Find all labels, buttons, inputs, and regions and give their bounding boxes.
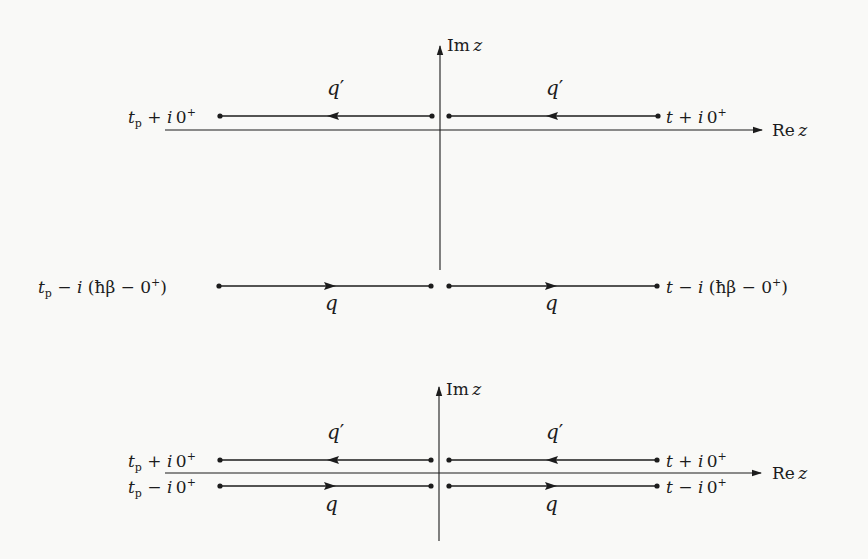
superscript-plus: + [187, 476, 196, 489]
imag-unit: i [698, 451, 703, 471]
hbar-beta-term: (ħβ − 0 [82, 277, 151, 297]
t-symbol: t [666, 451, 673, 471]
q-symbol: q [546, 76, 559, 100]
superscript-plus: + [151, 276, 160, 289]
bottom-re-axis-label: Re z [772, 465, 807, 482]
prime-mark: ′ [559, 420, 564, 444]
re-label-text: Re [772, 120, 795, 140]
t-symbol: t [666, 277, 673, 297]
imag-unit: i [698, 477, 703, 497]
operator: − [52, 277, 77, 297]
endpoint-dot [217, 457, 222, 462]
endpoint-dot [654, 283, 659, 288]
endpoint-dot [446, 283, 451, 288]
field-label-q: q [545, 293, 558, 313]
superscript-plus: + [718, 476, 727, 489]
t-symbol: t [38, 277, 45, 297]
t-symbol: t [128, 451, 135, 471]
endpoint-dot [428, 283, 433, 288]
operator: + [673, 451, 698, 471]
imag-unit: i [167, 477, 172, 497]
close-paren: ) [160, 277, 167, 297]
zero: 0 [176, 107, 187, 127]
zero: 0 [176, 451, 187, 471]
operator: + [142, 107, 167, 127]
im-label-var: z [472, 379, 481, 399]
field-label-q: q [325, 293, 338, 313]
endpoint-label-tp-plus-i0: tp + i 0+ [128, 107, 196, 129]
q-symbol: q [327, 420, 340, 444]
q-symbol: q [327, 76, 340, 100]
endpoint-label-t-minus-i0: t − i 0+ [666, 477, 727, 496]
prime-mark: ′ [340, 76, 345, 100]
operator: + [673, 107, 698, 127]
operator: − [673, 277, 698, 297]
t-symbol: t [666, 477, 673, 497]
endpoint-label-t-plus-i0: t + i 0+ [666, 451, 727, 470]
im-label-text: Im [446, 379, 469, 399]
hbar-beta-term: (ħβ − 0 [703, 277, 772, 297]
imag-unit: i [167, 107, 172, 127]
bottom-im-axis-label: Im z [446, 381, 481, 398]
top-im-axis-label: Im z [447, 37, 482, 54]
superscript-plus: + [187, 450, 196, 463]
field-label-q: q [325, 494, 338, 514]
t-symbol: t [128, 107, 135, 127]
superscript-plus: + [187, 106, 196, 119]
operator: − [673, 477, 698, 497]
top-re-axis-label: Re z [772, 122, 807, 139]
endpoint-dot [217, 113, 222, 118]
prime-mark: ′ [559, 76, 564, 100]
endpoint-dot [429, 113, 434, 118]
superscript-plus: + [772, 276, 781, 289]
superscript-plus: + [718, 450, 727, 463]
top-upper-branch [217, 112, 660, 120]
re-label-text: Re [772, 463, 795, 483]
field-label-q-prime: q′ [546, 422, 563, 442]
field-label-q-prime: q′ [327, 422, 344, 442]
top-panel [165, 46, 762, 290]
re-label-var: z [798, 120, 807, 140]
endpoint-dot [217, 483, 222, 488]
endpoint-label-tp-minus-i-hbar-beta: tp − i (ħβ − 0+) [38, 277, 167, 299]
prime-mark: ′ [340, 420, 345, 444]
endpoint-dot [216, 283, 221, 288]
zero: 0 [176, 477, 187, 497]
endpoint-dot [446, 113, 451, 118]
zero: 0 [707, 477, 718, 497]
subscript-p: p [135, 461, 142, 474]
endpoint-dot [654, 483, 659, 488]
zero: 0 [707, 451, 718, 471]
zero: 0 [707, 107, 718, 127]
re-label-var: z [798, 463, 807, 483]
q-symbol: q [546, 420, 559, 444]
im-label-var: z [473, 35, 482, 55]
endpoint-dot [655, 113, 660, 118]
endpoint-dot [446, 483, 451, 488]
t-symbol: t [666, 107, 673, 127]
endpoint-label-tp-plus-i0: tp + i 0+ [128, 451, 196, 473]
imag-unit: i [167, 451, 172, 471]
subscript-p: p [135, 117, 142, 130]
endpoint-label-t-minus-i-hbar-beta: t − i (ħβ − 0+) [666, 277, 788, 296]
endpoint-dot [654, 457, 659, 462]
imag-unit: i [698, 107, 703, 127]
field-label-q-prime: q′ [327, 78, 344, 98]
im-label-text: Im [447, 35, 470, 55]
t-symbol: t [128, 477, 135, 497]
superscript-plus: + [718, 106, 727, 119]
endpoint-label-t-plus-i0: t + i 0+ [666, 107, 727, 126]
endpoint-dot [428, 457, 433, 462]
subscript-p: p [45, 287, 52, 300]
subscript-p: p [135, 487, 142, 500]
endpoint-dot [428, 483, 433, 488]
close-paren: ) [781, 277, 788, 297]
field-label-q-prime: q′ [546, 78, 563, 98]
field-label-q: q [545, 494, 558, 514]
operator: + [142, 451, 167, 471]
operator: − [142, 477, 167, 497]
top-lower-branch [216, 282, 659, 290]
endpoint-dot [446, 457, 451, 462]
endpoint-label-tp-minus-i0: tp − i 0+ [128, 477, 196, 499]
